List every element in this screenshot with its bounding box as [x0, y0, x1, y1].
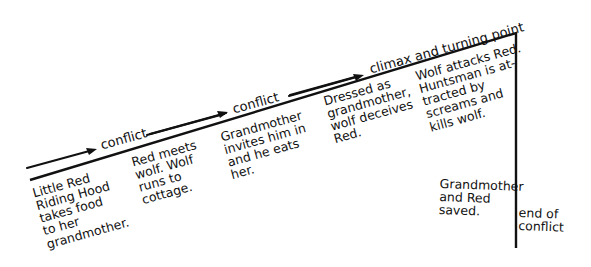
end-of-conflict-label: end of conflict: [518, 206, 564, 234]
stage-resolution: Grandmother and Red saved.: [439, 177, 524, 219]
arrowhead-icon: [86, 148, 97, 155]
arrowhead-icon: [217, 111, 228, 118]
